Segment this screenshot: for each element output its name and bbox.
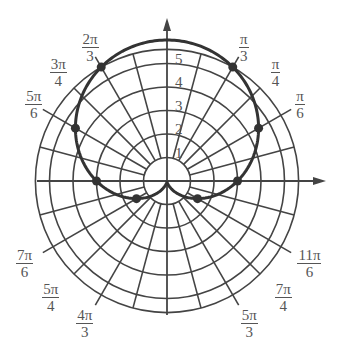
- angle-label-denominator: 3: [240, 48, 248, 63]
- angle-label: π6: [295, 89, 305, 120]
- angle-label: 5π3: [241, 308, 258, 339]
- angle-label: 3π4: [50, 57, 67, 88]
- grid-ray: [190, 187, 294, 215]
- radial-tick-label: 5: [175, 51, 183, 68]
- point-marker: [233, 177, 242, 186]
- angle-label-denominator: 6: [21, 264, 29, 279]
- point-marker: [193, 194, 202, 203]
- angle-label: π3: [239, 32, 249, 63]
- angle-label-denominator: 3: [86, 48, 94, 63]
- angle-label-numerator: 4π: [76, 308, 93, 324]
- point-marker: [71, 124, 80, 133]
- grid-ray: [133, 54, 161, 158]
- angle-label: 5π6: [25, 89, 42, 120]
- angle-label-numerator: 7π: [16, 248, 33, 264]
- angle-label-numerator: 11π: [297, 248, 321, 264]
- angle-label-denominator: 4: [280, 298, 288, 313]
- point-marker: [97, 63, 106, 72]
- grid-ray: [74, 198, 150, 274]
- point-marker: [132, 194, 141, 203]
- grid-ray: [133, 204, 161, 308]
- point-marker: [254, 124, 263, 133]
- point-marker: [228, 63, 237, 72]
- grid-ray: [184, 198, 260, 274]
- angle-label-denominator: 4: [54, 73, 62, 88]
- angle-label-denominator: 3: [246, 324, 254, 339]
- angle-label-denominator: 4: [272, 73, 280, 88]
- angle-label-denominator: 3: [81, 324, 89, 339]
- radial-tick-label: 1: [175, 145, 183, 162]
- angle-label: 5π4: [42, 282, 59, 313]
- angle-label-numerator: 3π: [50, 57, 67, 73]
- point-marker: [92, 177, 101, 186]
- angle-label-numerator: π: [271, 57, 281, 73]
- angle-label: 4π3: [76, 308, 93, 339]
- angle-label: 7π4: [275, 282, 292, 313]
- x-axis-arrow-icon: [313, 177, 326, 185]
- grid-ray: [40, 147, 144, 175]
- angle-label: π4: [271, 57, 281, 88]
- angle-label-numerator: 5π: [42, 282, 59, 298]
- angle-label-numerator: 2π: [82, 32, 99, 48]
- angle-label-numerator: 7π: [275, 282, 292, 298]
- y-axis-arrow-icon: [163, 18, 171, 31]
- angle-label-denominator: 6: [30, 105, 38, 120]
- angle-label: 11π6: [297, 248, 321, 279]
- angle-label-denominator: 4: [47, 298, 55, 313]
- grid-ray: [184, 88, 260, 164]
- angle-label-numerator: 5π: [25, 89, 42, 105]
- angle-label-numerator: π: [295, 89, 305, 105]
- grid-ray: [173, 204, 201, 308]
- radial-tick-label: 4: [175, 74, 183, 91]
- grid-ray: [190, 147, 294, 175]
- angle-label-denominator: 6: [306, 264, 314, 279]
- radial-tick-label: 3: [175, 98, 183, 115]
- angle-label: 2π3: [82, 32, 99, 63]
- grid-ray: [74, 88, 150, 164]
- angle-label: 7π6: [16, 248, 33, 279]
- radial-tick-label: 2: [175, 121, 183, 138]
- grid-ray: [40, 187, 144, 215]
- angle-label-numerator: 5π: [241, 308, 258, 324]
- angle-label-numerator: π: [239, 32, 249, 48]
- angle-label-denominator: 6: [296, 105, 304, 120]
